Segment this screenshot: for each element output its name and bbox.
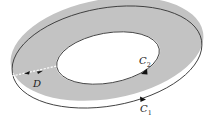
- region-label-d: D: [32, 78, 41, 89]
- outer-curve-label: C1: [140, 103, 152, 117]
- annulus-diagram: D C2 C1: [0, 0, 209, 122]
- inner-curve-arrow-icon: [141, 69, 148, 75]
- inner-curve-label: C2: [139, 55, 151, 69]
